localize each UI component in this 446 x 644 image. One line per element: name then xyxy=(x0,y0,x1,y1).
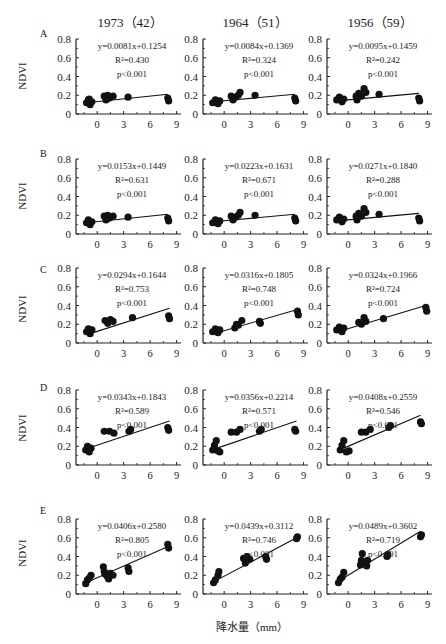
y-tick-label: 0.8 xyxy=(308,153,322,165)
x-tick-label: 0 xyxy=(222,119,227,130)
panel-e-1: 00.20.40.60.80369y=0.0406x+0.2580R²=0.80… xyxy=(57,513,181,610)
y-tick-label: 0 xyxy=(317,228,323,240)
data-point xyxy=(345,447,352,454)
data-point xyxy=(340,437,347,444)
y-tick-label: 0.4 xyxy=(57,300,71,312)
y-tick-label: 0.2 xyxy=(57,89,71,101)
data-point xyxy=(216,448,223,455)
y-tick-label: 0 xyxy=(193,228,199,240)
r-squared: R²=0.430 xyxy=(115,55,150,65)
x-tick-label: 9 xyxy=(174,470,179,481)
y-tick-label: 0.4 xyxy=(184,191,198,203)
data-point xyxy=(124,214,131,221)
regression-equation: y=0.0489x+0.3602 xyxy=(349,521,418,531)
y-tick-label: 0.6 xyxy=(308,172,322,184)
x-tick-label: 0 xyxy=(222,599,227,610)
data-point xyxy=(418,420,425,427)
data-point xyxy=(236,89,243,96)
y-tick-label: 0.8 xyxy=(184,262,198,274)
p-value: p<0.001 xyxy=(368,420,398,430)
y-tick-label: 0 xyxy=(66,588,72,600)
x-tick-label: 0 xyxy=(346,119,351,130)
y-tick-label: 0.8 xyxy=(57,33,71,45)
data-point xyxy=(129,314,136,321)
data-point xyxy=(213,437,220,444)
y-tick-label: 0.8 xyxy=(308,262,322,274)
y-tick-label: 0 xyxy=(317,337,323,349)
p-value: p<0.001 xyxy=(244,420,274,430)
x-tick-label: 6 xyxy=(147,599,152,610)
y-tick-label: 0.2 xyxy=(57,318,71,330)
x-tick-label: 9 xyxy=(174,599,179,610)
y-tick-label: 0.6 xyxy=(57,403,71,415)
y-tick-label: 0.8 xyxy=(57,262,71,274)
y-tick-label: 0 xyxy=(193,337,199,349)
x-tick-label: 3 xyxy=(248,239,253,250)
data-point xyxy=(362,318,369,325)
x-tick-label: 6 xyxy=(398,239,403,250)
regression-equation: y=0.0356x+0.2214 xyxy=(225,392,294,402)
x-tick-label: 6 xyxy=(274,348,279,359)
x-tick-label: 6 xyxy=(274,239,279,250)
p-value: p<0.001 xyxy=(244,69,274,79)
y-tick-label: 0 xyxy=(193,459,199,471)
y-tick-label: 0 xyxy=(317,588,323,600)
x-tick-label: 0 xyxy=(346,348,351,359)
data-point xyxy=(251,212,258,219)
y-tick-label: 0.4 xyxy=(57,551,71,563)
y-tick-label: 0.6 xyxy=(308,403,322,415)
y-tick-label: 0.6 xyxy=(57,52,71,64)
y-tick-label: 0.4 xyxy=(57,71,71,83)
x-tick-label: 3 xyxy=(372,599,377,610)
data-point xyxy=(257,320,264,327)
data-point xyxy=(87,445,94,452)
regression-equation: y=0.0316x+0.1805 xyxy=(225,270,294,280)
data-point xyxy=(216,97,223,104)
y-tick-label: 0.4 xyxy=(184,422,198,434)
r-squared: R²=0.805 xyxy=(115,535,150,545)
data-point xyxy=(418,531,425,538)
data-point xyxy=(359,550,366,557)
y-tick-label: 0 xyxy=(193,588,199,600)
x-axis-label: 降水量（mm） xyxy=(152,618,352,634)
data-point xyxy=(86,95,93,102)
x-tick-label: 9 xyxy=(174,348,179,359)
r-squared: R²=0.546 xyxy=(366,406,401,416)
y-tick-label: 0.6 xyxy=(57,172,71,184)
y-tick-label: 0.6 xyxy=(57,281,71,293)
data-point xyxy=(166,315,173,322)
regression-equation: y=0.0081x+0.1254 xyxy=(98,41,167,51)
data-point xyxy=(236,426,243,433)
x-tick-label: 6 xyxy=(274,599,279,610)
y-tick-label: 0.8 xyxy=(57,153,71,165)
r-squared: R²=0.631 xyxy=(115,175,149,185)
data-point xyxy=(236,209,243,216)
x-tick-label: 3 xyxy=(121,119,126,130)
x-tick-label: 3 xyxy=(248,470,253,481)
y-tick-label: 0.6 xyxy=(184,281,198,293)
y-tick-label: 0.6 xyxy=(184,52,198,64)
p-value: p<0.001 xyxy=(368,298,398,308)
regression-equation: y=0.0294x+0.1644 xyxy=(98,270,167,280)
y-tick-label: 0.4 xyxy=(308,551,322,563)
x-tick-label: 0 xyxy=(95,348,100,359)
y-tick-label: 0.4 xyxy=(308,191,322,203)
x-tick-label: 6 xyxy=(147,470,152,481)
data-point xyxy=(416,217,423,224)
y-tick-label: 0.6 xyxy=(184,532,198,544)
panel-a-2: 00.20.40.60.80369y=0.0084x+0.1369R²=0.32… xyxy=(184,33,308,130)
data-point xyxy=(340,95,347,102)
x-tick-label: 0 xyxy=(222,239,227,250)
data-point xyxy=(380,315,387,322)
x-tick-label: 3 xyxy=(248,119,253,130)
data-point xyxy=(165,544,172,551)
r-squared: R²=0.753 xyxy=(115,284,150,294)
x-tick-label: 0 xyxy=(95,599,100,610)
p-value: p<0.001 xyxy=(368,189,398,199)
data-point xyxy=(251,92,258,99)
y-tick-label: 0.2 xyxy=(308,89,322,101)
y-tick-label: 0.8 xyxy=(184,33,198,45)
y-tick-label: 0.2 xyxy=(308,569,322,581)
x-tick-label: 9 xyxy=(174,239,179,250)
x-tick-label: 9 xyxy=(425,348,430,359)
